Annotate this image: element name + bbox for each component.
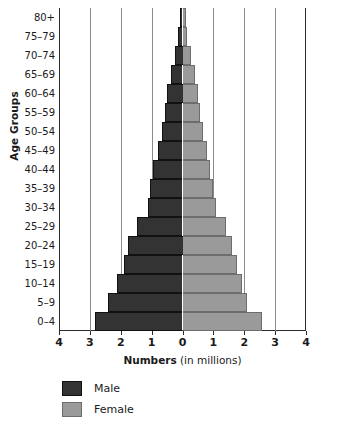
bar-male [167,84,182,103]
bar-female [183,312,262,331]
y-axis-tick-label: 15–19 [7,260,55,270]
y-axis-tick-label: 50–54 [7,127,55,137]
bar-female [183,293,247,312]
bar-male [95,312,182,331]
y-axis-tick-label: 70–74 [7,51,55,61]
x-axis-tick-mark [306,331,307,335]
bar-row [59,46,306,65]
bar-male [150,179,182,198]
bar-row [59,236,306,255]
bar-male [175,46,183,65]
bar-female [183,122,203,141]
bar-female [183,84,198,103]
x-axis-tick-mark [152,331,153,335]
y-axis-tick-label: 0–4 [7,317,55,327]
bar-female [183,103,200,122]
bar-female [183,198,217,217]
x-axis-tick-mark [59,331,60,335]
bar-row [59,27,306,46]
bar-row [59,255,306,274]
y-axis-tick-label: 5–9 [7,298,55,308]
bar-female [183,27,188,46]
bar-female [183,65,195,84]
x-axis-tick-mark [275,331,276,335]
bar-male [117,274,182,293]
bar-female [183,8,186,27]
y-axis-tick-label: 75–79 [7,32,55,42]
plot-area [59,8,306,331]
x-axis-title-bold: Numbers [123,354,176,366]
x-axis-tick-mark [90,331,91,335]
bar-female [183,255,237,274]
y-axis-tick-label: 45–49 [7,146,55,156]
bar-male [148,198,183,217]
chart-legend: Male Female [62,378,262,420]
bar-row [59,8,306,27]
x-axis-tick-label: 4 [296,336,316,349]
bar-row [59,198,306,217]
bar-male [171,65,183,84]
x-axis-tick-label: 4 [49,336,69,349]
bar-row [59,122,306,141]
legend-label-male: Male [94,382,120,395]
x-axis-tick-label: 3 [265,336,285,349]
population-pyramid-chart: Age Groups 80+75–7970–7465–6960–6455–595… [0,0,338,421]
bar-row [59,293,306,312]
legend-item-female: Female [62,399,262,420]
bar-female [183,217,226,236]
bar-female [183,160,211,179]
bar-female [183,179,214,198]
bar-row [59,84,306,103]
bar-row [59,160,306,179]
bar-male [108,293,183,312]
x-axis-tick-label: 1 [142,336,162,349]
bar-row [59,274,306,293]
bar-row [59,65,306,84]
bar-row [59,217,306,236]
legend-label-female: Female [94,403,134,416]
x-axis-tick-label: 1 [203,336,223,349]
bar-rows [59,8,306,331]
bar-male [124,255,183,274]
x-axis-tick-label: 2 [234,336,254,349]
y-axis-tick-labels: 80+75–7970–7465–6960–6455–5950–5445–4940… [5,8,55,331]
bar-female [183,46,192,65]
x-axis-title: Numbers (in millions) [59,354,306,366]
bar-male [128,236,182,255]
x-axis-tick-label: 0 [173,336,193,349]
x-axis-tick-mark [183,331,184,335]
y-axis-tick-label: 25–29 [7,222,55,232]
bar-male [153,160,182,179]
bar-row [59,141,306,160]
bar-row [59,312,306,331]
y-axis-tick-label: 55–59 [7,108,55,118]
x-axis-ticks: 432101234 [59,331,306,353]
bar-female [183,274,243,293]
y-axis-tick-label: 10–14 [7,279,55,289]
x-axis-title-plain: (in millions) [177,354,242,366]
x-axis-tick-mark [121,331,122,335]
bar-female [183,236,232,255]
bar-male [165,103,182,122]
y-axis-tick-label: 30–34 [7,203,55,213]
x-axis-tick-mark [244,331,245,335]
legend-item-male: Male [62,378,262,399]
legend-swatch-male-icon [62,381,82,396]
bar-female [183,141,207,160]
bar-row [59,103,306,122]
bar-male [158,141,183,160]
bar-male [162,122,182,141]
legend-swatch-female-icon [62,402,82,417]
y-axis-tick-label: 65–69 [7,70,55,80]
x-axis-tick-label: 2 [111,336,131,349]
bar-row [59,179,306,198]
x-axis-tick-mark [213,331,214,335]
y-axis-tick-label: 40–44 [7,165,55,175]
y-axis-tick-label: 60–64 [7,89,55,99]
y-axis-tick-label: 80+ [7,13,55,23]
y-axis-tick-label: 35–39 [7,184,55,194]
x-axis-tick-label: 3 [80,336,100,349]
y-axis-tick-label: 20–24 [7,241,55,251]
bar-male [137,217,182,236]
